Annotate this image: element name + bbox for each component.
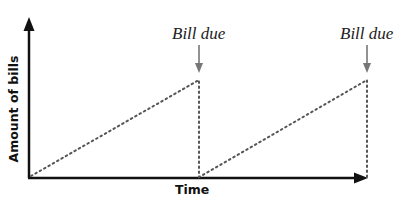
x-axis-arrowhead (354, 173, 368, 184)
y-axis-label: Amount of bills (6, 59, 21, 163)
bill-due-arrowhead-1 (195, 63, 203, 73)
y-axis-arrowhead (24, 17, 35, 31)
bills-sawtooth-line (31, 80, 367, 177)
bill-due-label-2: Bill due (340, 24, 393, 44)
bill-due-label-1: Bill due (172, 24, 225, 44)
bill-due-arrowhead-2 (363, 63, 371, 73)
x-axis-label: Time (175, 182, 209, 197)
